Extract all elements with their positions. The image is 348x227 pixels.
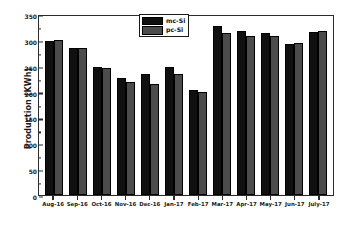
y-axis-tick-major: 250	[24, 64, 39, 71]
legend-entry: mc-Si	[142, 17, 185, 26]
bar-group	[114, 16, 138, 195]
x-axis-tick-mark	[294, 196, 295, 200]
chart-legend: mc-Sipc-Si	[139, 14, 189, 37]
bar-group	[90, 16, 114, 195]
bar-pc-si-july-17	[318, 31, 327, 195]
x-axis-tick-mark	[198, 196, 199, 200]
plot-area: 350300250200150100500	[38, 15, 334, 196]
bar-group	[162, 16, 186, 195]
bar-mc-si-aug-16	[45, 41, 54, 195]
bar-group	[42, 16, 66, 195]
bar-mc-si-apr-17	[237, 31, 246, 195]
bar-mc-si-sep-16	[69, 48, 78, 195]
bar-pc-si-nov-16	[126, 82, 135, 195]
x-axis-tick-label: July-17	[307, 201, 331, 207]
x-axis-tick-mark	[270, 196, 271, 200]
bar-group	[234, 16, 258, 195]
y-axis-tick-major: 50	[29, 168, 39, 175]
y-axis-tick-major: 150	[24, 116, 39, 123]
bar-pc-si-apr-17	[246, 36, 255, 195]
x-axis-tick-label: Jun-17	[283, 201, 307, 207]
bar-mc-si-july-17	[309, 32, 318, 195]
legend-label: pc-Si	[166, 27, 183, 33]
y-axis-tick-label: 250	[24, 64, 37, 71]
x-axis-tick-mark	[222, 196, 223, 200]
bar-group	[306, 16, 330, 195]
bar-pc-si-jan-17	[174, 74, 183, 195]
x-axis-labels: Aug-16Sep-16Oct-16Nov-16Dec-16Jan-17Feb-…	[38, 201, 334, 207]
legend-label: mc-Si	[166, 18, 185, 24]
bar-mc-si-nov-16	[117, 78, 126, 195]
bar-group	[66, 16, 90, 195]
x-axis-tick-label: Aug-16	[41, 201, 65, 207]
y-axis-tick-major: 300	[24, 38, 39, 45]
bar-mc-si-dec-16	[141, 74, 150, 195]
x-axis-tick-mark	[101, 196, 102, 200]
x-axis-tick-label: Jan-17	[162, 201, 186, 207]
bar-group	[210, 16, 234, 195]
bars-layer	[39, 16, 333, 195]
bar-group	[258, 16, 282, 195]
legend-swatch	[142, 26, 163, 35]
bar-pc-si-feb-17	[198, 92, 207, 195]
x-axis-tick-mark	[246, 196, 247, 200]
legend-entry: pc-Si	[142, 26, 185, 35]
x-axis-tick-mark	[173, 196, 174, 200]
x-axis-tick-mark	[125, 196, 126, 200]
y-axis-tick-label: 150	[24, 116, 37, 123]
bar-mc-si-oct-16	[93, 67, 102, 195]
y-axis-tick-major: 350	[24, 13, 39, 20]
legend-swatch	[142, 17, 163, 26]
bar-pc-si-may-17	[270, 36, 279, 195]
bar-mc-si-may-17	[261, 33, 270, 195]
y-axis-tick-label: 300	[24, 38, 37, 45]
y-axis-tick-label: 200	[24, 90, 37, 97]
x-axis-tick-label: Nov-16	[114, 201, 138, 207]
bar-group	[282, 16, 306, 195]
bar-pc-si-dec-16	[150, 84, 159, 195]
bar-mc-si-jun-17	[285, 44, 294, 195]
bar-mc-si-feb-17	[189, 90, 198, 195]
y-axis-tick-label: 100	[24, 142, 37, 149]
y-axis-tick-label: 50	[29, 168, 37, 175]
y-axis-tick-major: 100	[24, 142, 39, 149]
bar-pc-si-mar-17	[222, 33, 231, 195]
bar-chart: Production (KWh) 350300250200150100500 A…	[0, 0, 348, 227]
x-axis-tick-label: Feb-17	[186, 201, 210, 207]
x-axis-tick-label: May-17	[259, 201, 283, 207]
x-axis-tick-label: Sep-16	[65, 201, 89, 207]
y-axis-tick-label: 350	[24, 13, 37, 20]
x-axis-tick-label: Mar-17	[210, 201, 234, 207]
bar-group	[138, 16, 162, 195]
x-axis-tick-label: Oct-16	[89, 201, 113, 207]
bar-pc-si-sep-16	[78, 48, 87, 195]
bar-pc-si-oct-16	[102, 68, 111, 195]
bar-mc-si-jan-17	[165, 67, 174, 195]
bar-pc-si-jun-17	[294, 43, 303, 195]
x-axis-tick-mark	[77, 196, 78, 200]
x-axis-tick-mark	[318, 196, 319, 200]
x-axis-tick-label: Apr-17	[234, 201, 258, 207]
bar-mc-si-mar-17	[213, 26, 222, 195]
bar-group	[186, 16, 210, 195]
y-axis-tick-major: 200	[24, 90, 39, 97]
y-axis-title: Production (KWh)	[24, 29, 33, 189]
x-axis-tick-mark	[52, 196, 53, 200]
bar-pc-si-aug-16	[54, 40, 63, 195]
y-axis-tick-label: 0	[33, 194, 37, 201]
x-axis-tick-label: Dec-16	[138, 201, 162, 207]
x-axis-tick-mark	[149, 196, 150, 200]
